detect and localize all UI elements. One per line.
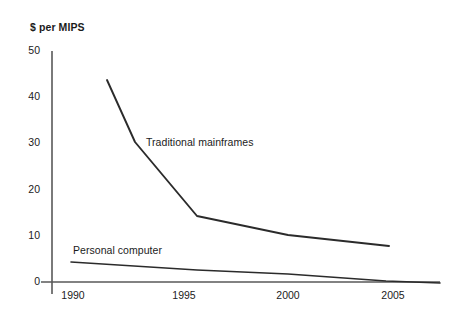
series-line-traditional-mainframes	[107, 80, 389, 246]
x-tick-label-2005: 2005	[370, 290, 416, 301]
x-tick-label-1990: 1990	[50, 290, 96, 301]
x-tick-label-2000: 2000	[265, 290, 311, 301]
chart-container: $ per MIPS 50 40 30 20 10 0 1990 1995 20…	[0, 0, 461, 324]
chart-plot-area	[0, 0, 461, 324]
x-tick-label-1995: 1995	[161, 290, 207, 301]
y-tick-label-10: 10	[14, 230, 40, 241]
y-tick-label-30: 30	[14, 137, 40, 148]
y-tick-label-40: 40	[14, 91, 40, 102]
y-tick-label-50: 50	[14, 45, 40, 56]
y-axis-title: $ per MIPS	[30, 22, 85, 33]
y-tick-label-0: 0	[14, 276, 40, 287]
series-annotation-traditional-mainframes: Traditional mainframes	[146, 137, 254, 148]
series-annotation-personal-computer: Personal computer	[73, 245, 162, 256]
y-tick-label-20: 20	[14, 184, 40, 195]
series-line-personal-computer	[71, 262, 440, 283]
